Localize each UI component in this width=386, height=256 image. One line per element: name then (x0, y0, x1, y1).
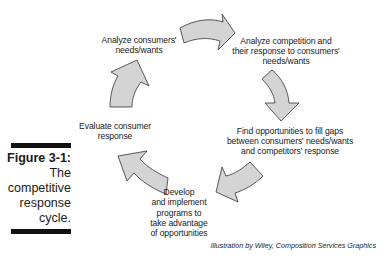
step-develop-programs: Develop and implement programs to take a… (139, 187, 219, 238)
step-text-line: take advantage (139, 218, 219, 228)
illustration-credit: Illustration by Wiley, Composition Servi… (210, 241, 376, 250)
step-text-line: programs to (139, 208, 219, 218)
step-analyze-competition: Analyze competition and their response t… (226, 36, 346, 66)
step-text-line: needs/wants (89, 45, 189, 55)
caption-line: response (0, 196, 71, 211)
caption-line: competitive (0, 181, 71, 196)
caption-line: The (0, 166, 71, 181)
caption-top-rule (11, 143, 71, 148)
arrow-down-icon (262, 70, 299, 121)
arrow-down-left-icon (216, 162, 263, 202)
step-text-line: Develop (139, 187, 219, 197)
step-text-line: Evaluate consumer (70, 121, 160, 131)
step-text-line: Find opportunities to fill gaps (224, 126, 356, 136)
caption-line: cycle. (0, 211, 71, 226)
arrow-up-icon (110, 60, 149, 107)
caption-bottom-rule (11, 229, 71, 234)
step-text-line: between consumers' needs/wants (224, 136, 356, 146)
step-text-line: of opportunities (139, 228, 219, 238)
figure-caption: Figure 3-1: The competitive response cyc… (0, 151, 71, 226)
step-evaluate-response: Evaluate consumer response (70, 121, 160, 141)
step-text-line: Analyze competition and (226, 36, 346, 46)
step-text-line: response (70, 131, 160, 141)
step-text-line: and implement (139, 197, 219, 207)
step-analyze-consumers: Analyze consumers' needs/wants (89, 35, 189, 55)
step-find-opportunities: Find opportunities to fill gaps between … (224, 126, 356, 156)
step-text-line: and competitors' response (224, 146, 356, 156)
step-text-line: needs/wants (226, 56, 346, 66)
step-text-line: Analyze consumers' (89, 35, 189, 45)
figure-number: Figure 3-1: (0, 151, 71, 166)
step-text-line: their response to consumers' (226, 46, 346, 56)
